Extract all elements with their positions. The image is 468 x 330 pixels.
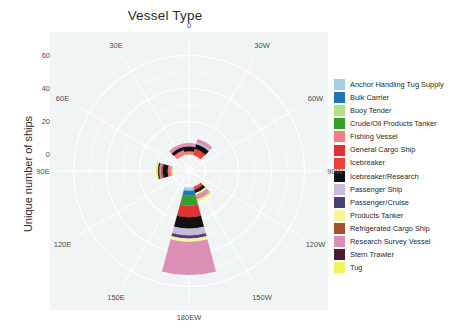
legend-item-label: Bulk Carrier [350,94,389,101]
angular-axis-label: 120W [306,240,326,249]
legend-key-swatch [334,223,345,234]
angular-axis-label: 90E [36,167,49,176]
legend-key-swatch [334,145,345,156]
chart-root: Vessel Type Unique number of ships 02040… [0,0,468,330]
legend-item[interactable]: Buoy Tender [334,104,468,117]
wedge-segment [174,216,204,229]
legend-item[interactable]: Refrigerated Cargo Ship [334,222,468,235]
y-axis-tick-group: 0204060 [12,0,50,330]
angular-axis-label: 150W [252,293,272,302]
legend-item-label: Fishing Vessel [350,133,398,140]
legend-item-label: Icebreaker [350,159,385,166]
legend-item[interactable]: Passenger Ship [334,183,468,196]
legend-item[interactable]: Stern Trawler [334,248,468,261]
y-axis-tick-label: 0 [16,150,50,159]
wedge-segment [180,195,198,206]
wedge-segment [184,151,194,155]
legend-item[interactable]: Products Tanker [334,209,468,222]
angular-axis-label: 60E [56,94,69,103]
angular-axis-label: 60W [308,94,323,103]
legend-item-label: Passenger/Cruise [350,199,409,206]
y-axis-tick-label: 20 [16,117,50,126]
legend-item[interactable]: Passenger/Cruise [334,196,468,209]
wedge-group [156,139,216,275]
legend-item[interactable]: Bulk Carrier [334,91,468,104]
legend-item-label: Passenger Ship [350,186,402,193]
wedge-segment [163,164,169,178]
legend-item-label: Research Survey Vessel [350,238,431,245]
wedge-segment [183,146,196,152]
legend-key-swatch [334,249,345,260]
y-axis-tick-label: 60 [16,51,50,60]
legend-key-swatch [334,105,345,116]
legend-key-swatch [334,79,345,90]
legend-item-label: Icebreaker/Research [350,173,419,180]
y-axis-tick-label: 40 [16,84,50,93]
legend-key-swatch [334,262,345,273]
legend-key-swatch [334,184,345,195]
plot-panel [50,32,328,310]
legend-item[interactable]: Anchor Handling Tug Supply [334,78,468,91]
legend-item-label: Stern Trawler [350,251,394,258]
wedge-segment [162,240,216,275]
legend-item[interactable]: Tug [334,261,468,274]
legend-item-label: Products Tanker [350,212,403,219]
legend-key-swatch [334,92,345,103]
legend-item[interactable]: Fishing Vessel [334,130,468,143]
angular-axis-label: 30W [254,40,269,49]
angular-axis-label: 150E [107,293,125,302]
angular-axis-label: 120E [54,240,72,249]
legend-item-label: Buoy Tender [350,107,391,114]
wedge-segment [177,204,201,217]
angular-axis-label: 30E [109,40,122,49]
legend-key-swatch [334,118,345,129]
wedge-segment [184,187,194,191]
legend-item-label: Crude/Oil Products Tanker [350,120,437,127]
legend-item[interactable]: General Cargo Ship [334,143,468,156]
legend-item-label: General Cargo Ship [350,146,415,153]
legend-item[interactable]: Research Survey Vessel [334,235,468,248]
legend-item[interactable]: Icebreaker/Research [334,170,468,183]
legend-key-swatch [334,197,345,208]
legend: Anchor Handling Tug SupplyBulk CarrierBu… [334,78,468,274]
angular-axis-label: 90W [327,167,342,176]
angular-axis-label: 180EW [177,313,202,322]
legend-key-swatch [334,131,345,142]
legend-item-label: Refrigerated Cargo Ship [350,225,430,232]
wedge-segment [168,165,172,176]
legend-key-swatch [334,210,345,221]
polar-plot-svg [50,32,328,310]
legend-item-label: Anchor Handling Tug Supply [350,81,444,88]
wedge-segment [183,190,196,196]
angular-axis-label: 0 [187,21,191,30]
legend-item[interactable]: Crude/Oil Products Tanker [334,117,468,130]
legend-key-swatch [334,236,345,247]
legend-item[interactable]: Icebreaker [334,157,468,170]
legend-item-label: Tug [350,264,362,271]
